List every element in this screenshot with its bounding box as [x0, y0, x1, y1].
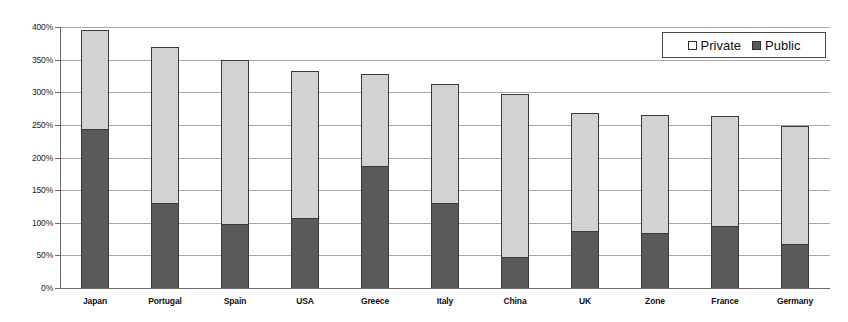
bar-stack[interactable]: [571, 113, 599, 288]
bar-segment-public[interactable]: [431, 203, 459, 288]
legend-item-private: Private: [688, 39, 741, 52]
bar-segment-public[interactable]: [221, 224, 249, 288]
legend-label-public: Public: [765, 39, 800, 52]
bar-group[interactable]: [711, 27, 739, 288]
bar-segment-public[interactable]: [151, 203, 179, 288]
y-axis-tick-mark: [55, 158, 60, 159]
bar-stack[interactable]: [291, 71, 319, 288]
y-axis-tick-label: 250%: [7, 120, 53, 130]
bar-group[interactable]: [641, 27, 669, 288]
bar-segment-public[interactable]: [641, 233, 669, 288]
y-axis-labels: 400%350%300%250%200%150%100%50%0%: [0, 27, 53, 288]
y-axis-tick-label: 150%: [7, 185, 53, 195]
y-axis-tick-label: 100%: [7, 218, 53, 228]
y-axis-tick-label: 0%: [7, 283, 53, 293]
bar-group[interactable]: [501, 27, 529, 288]
y-axis-tick-mark: [55, 60, 60, 61]
bar-segment-private[interactable]: [431, 84, 459, 203]
bar-segment-private[interactable]: [291, 71, 319, 217]
y-axis-tick-mark: [55, 223, 60, 224]
chart-legend: Private Public: [662, 32, 826, 58]
bar-stack[interactable]: [361, 74, 389, 288]
bar-segment-public[interactable]: [291, 218, 319, 288]
y-axis-tick-label: 50%: [7, 250, 53, 260]
legend-swatch-public-icon: [752, 41, 761, 50]
bar-stack[interactable]: [431, 84, 459, 288]
bar-segment-private[interactable]: [641, 115, 669, 232]
bar-group[interactable]: [81, 27, 109, 288]
bar-segment-public[interactable]: [781, 244, 809, 288]
bar-segment-private[interactable]: [781, 126, 809, 245]
bar-stack[interactable]: [501, 94, 529, 288]
bar-stack[interactable]: [81, 30, 109, 288]
y-axis-tick-mark: [55, 125, 60, 126]
bar-segment-private[interactable]: [361, 74, 389, 166]
bar-segment-private[interactable]: [151, 47, 179, 204]
y-axis-tick-mark: [55, 190, 60, 191]
bar-segment-private[interactable]: [501, 94, 529, 258]
y-axis-tick-mark: [55, 27, 60, 28]
y-axis-tick-label: 400%: [7, 22, 53, 32]
bar-group[interactable]: [431, 27, 459, 288]
bar-group[interactable]: [221, 27, 249, 288]
bar-stack[interactable]: [221, 60, 249, 288]
y-axis-tick-mark: [55, 255, 60, 256]
x-axis-tick-label: Germany: [745, 296, 845, 306]
bar-stack[interactable]: [711, 116, 739, 288]
bar-segment-public[interactable]: [711, 226, 739, 288]
bar-segment-private[interactable]: [571, 113, 599, 231]
bar-segment-public[interactable]: [361, 166, 389, 288]
legend-label-private: Private: [701, 39, 741, 52]
gridline: [60, 288, 830, 289]
bar-stack[interactable]: [781, 126, 809, 288]
bar-stack[interactable]: [641, 115, 669, 288]
legend-item-public: Public: [752, 39, 800, 52]
bar-segment-private[interactable]: [711, 116, 739, 226]
bar-segment-public[interactable]: [571, 231, 599, 288]
y-axis-tick-label: 300%: [7, 87, 53, 97]
bar-segment-public[interactable]: [81, 129, 109, 288]
y-axis-tick-mark: [55, 92, 60, 93]
bar-group[interactable]: [291, 27, 319, 288]
bar-group[interactable]: [781, 27, 809, 288]
y-axis-tick-label: 350%: [7, 55, 53, 65]
bar-segment-public[interactable]: [501, 257, 529, 288]
stacked-bar-chart: 400%350%300%250%200%150%100%50%0% JapanP…: [0, 0, 848, 322]
y-axis-tick-label: 200%: [7, 153, 53, 163]
legend-swatch-private-icon: [688, 41, 697, 50]
bar-segment-private[interactable]: [81, 30, 109, 129]
bar-group[interactable]: [361, 27, 389, 288]
bars-layer: [60, 27, 830, 288]
bar-group[interactable]: [571, 27, 599, 288]
bar-segment-private[interactable]: [221, 60, 249, 224]
bar-stack[interactable]: [151, 47, 179, 288]
bar-group[interactable]: [151, 27, 179, 288]
y-axis-tick-mark: [55, 288, 60, 289]
